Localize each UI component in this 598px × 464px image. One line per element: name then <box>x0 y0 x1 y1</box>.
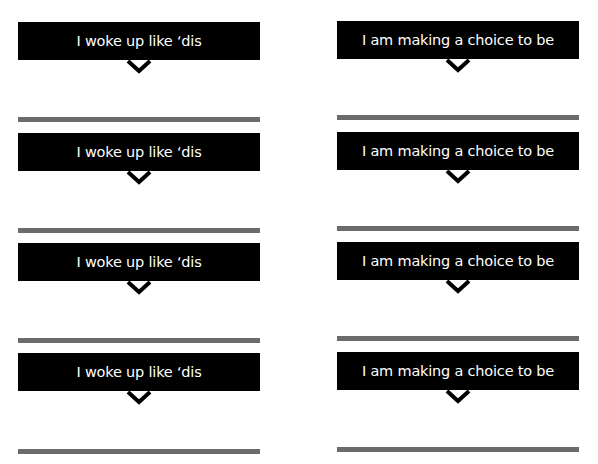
right-card-1[interactable]: I am making a choice to be <box>337 21 579 61</box>
divider <box>18 228 260 233</box>
chevron-down-icon[interactable] <box>126 389 152 405</box>
divider <box>337 447 579 452</box>
card-label: I woke up like ‘dis <box>18 243 260 281</box>
chevron-down-icon[interactable] <box>445 57 471 73</box>
chevron-down-icon[interactable] <box>126 169 152 185</box>
chevron-down-icon[interactable] <box>445 168 471 184</box>
card-label: I am making a choice to be <box>337 352 579 390</box>
left-card-1[interactable]: I woke up like ‘dis <box>18 22 260 62</box>
card-label: I am making a choice to be <box>337 242 579 280</box>
right-card-4[interactable]: I am making a choice to be <box>337 352 579 392</box>
chevron-down-icon[interactable] <box>126 58 152 74</box>
chevron-down-icon[interactable] <box>445 278 471 294</box>
chevron-down-icon[interactable] <box>445 388 471 404</box>
left-card-3[interactable]: I woke up like ‘dis <box>18 243 260 283</box>
divider <box>337 115 579 120</box>
chevron-down-icon[interactable] <box>126 279 152 295</box>
right-card-2[interactable]: I am making a choice to be <box>337 132 579 172</box>
card-label: I am making a choice to be <box>337 132 579 170</box>
divider <box>18 338 260 343</box>
left-card-4[interactable]: I woke up like ‘dis <box>18 353 260 393</box>
divider <box>18 449 260 454</box>
card-label: I woke up like ‘dis <box>18 22 260 60</box>
divider <box>18 117 260 122</box>
divider <box>337 336 579 341</box>
left-card-2[interactable]: I woke up like ‘dis <box>18 133 260 173</box>
divider <box>337 226 579 231</box>
card-label: I woke up like ‘dis <box>18 353 260 391</box>
right-card-3[interactable]: I am making a choice to be <box>337 242 579 282</box>
card-label: I am making a choice to be <box>337 21 579 59</box>
card-label: I woke up like ‘dis <box>18 133 260 171</box>
